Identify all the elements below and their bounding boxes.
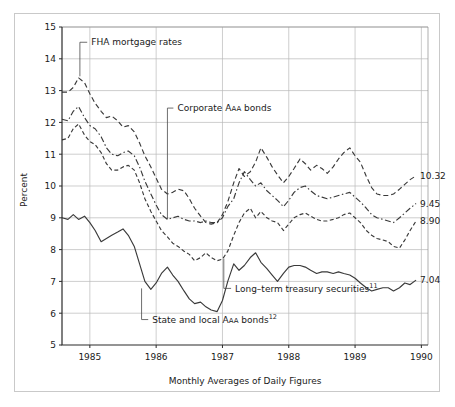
series-line-2 [62,107,416,223]
y-tick-label: 12 [45,118,56,128]
chart-figure: 56789101112131415 1985198619871988198919… [0,0,455,407]
y-tick-label: 10 [45,181,57,191]
y-tick-label: 5 [50,340,56,350]
x-tick-label: 1988 [277,352,300,362]
annotation-label-2: Corporate AAA bonds [177,103,271,113]
y-tick-label: 7 [50,277,56,287]
y-axis-title: Percent [19,173,29,207]
annotation-label-3: Long–term treasury securities11 [235,282,378,294]
y-tick-label: 9 [50,213,56,223]
x-tick-label: 1986 [145,352,168,362]
y-tick-label: 11 [45,150,56,160]
series-line-3 [62,124,416,261]
x-tick-label: 1985 [78,352,101,362]
y-axis-tick-labels: 56789101112131415 [45,22,62,350]
y-tick-label: 8 [50,245,56,255]
annotation-label-1: FHA mortgage rates [91,37,182,47]
y-tick-label: 6 [50,309,56,319]
x-tick-label: 1990 [410,352,433,362]
annotation-label-4: State and local AAA bonds12 [152,313,277,325]
y-tick-label: 15 [45,22,56,32]
x-axis-tick-labels: 198519861987198819891990 [78,345,433,362]
y-tick-label: 14 [45,54,57,64]
series-end-value-labels: 10.329.458.907.04 [420,171,446,285]
x-axis-title: Monthly Averages of Daily Figures [169,376,322,386]
x-tick-label: 1987 [211,352,234,362]
series-line-4 [62,215,416,312]
end-value-label-4: 7.04 [420,275,440,285]
y-tick-label: 13 [45,86,56,96]
end-value-label-1: 10.32 [420,171,446,181]
end-value-label-2: 9.45 [420,199,440,209]
x-tick-label: 1989 [344,352,367,362]
grid-layer [62,27,428,345]
series-line-1 [62,78,416,224]
interest-rates-line-chart: 56789101112131415 1985198619871988198919… [0,0,455,407]
end-value-label-3: 8.90 [420,216,440,226]
